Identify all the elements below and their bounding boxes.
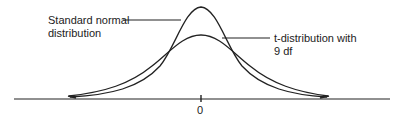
normal-distribution-label: Standard normal distribution — [48, 14, 129, 40]
normal-label-line1: Standard normal — [48, 14, 129, 27]
normal-label-line2: distribution — [48, 27, 129, 40]
distribution-diagram: Standard normal distribution t-distribut… — [0, 0, 404, 120]
t-distribution-label: t-distribution with 9 df — [274, 32, 357, 58]
t-label-line2: 9 df — [274, 45, 357, 58]
t-label-line1: t-distribution with — [274, 32, 357, 45]
axis-zero-label: 0 — [197, 104, 203, 117]
